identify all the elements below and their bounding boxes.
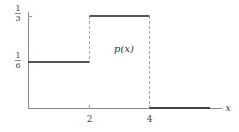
y-label-third-den: 3 [15, 14, 20, 23]
y-label-sixth-num: 1 [15, 51, 20, 60]
step-function-chart: 1 3 1 6 2 4 x p(x) [0, 0, 239, 132]
y-label-sixth-den: 6 [15, 61, 20, 70]
x-tick-label-2: 2 [87, 114, 93, 124]
function-label: p(x) [114, 43, 134, 54]
x-tick-label-4: 4 [147, 114, 153, 124]
x-axis-label: x [225, 103, 230, 113]
y-label-third-num: 1 [15, 4, 20, 13]
